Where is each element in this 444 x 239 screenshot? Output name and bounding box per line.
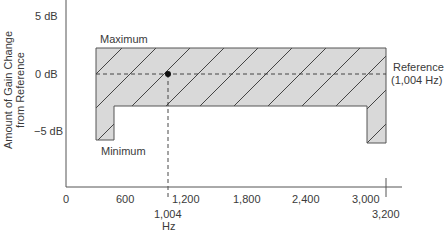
x-tick-1800: 1,800 bbox=[233, 193, 261, 205]
y-tick-minus5db: −5 dB bbox=[34, 125, 63, 137]
y-tick-0db: 0 dB bbox=[35, 68, 58, 80]
y-axis-label: Amount of Gain Change from Reference bbox=[2, 31, 26, 149]
x-tick-2400: 2,400 bbox=[292, 193, 320, 205]
x-tick-1200: 1,200 bbox=[172, 193, 200, 205]
x-tick-600: 600 bbox=[116, 193, 134, 205]
y-axis-label-line2: from Reference bbox=[14, 31, 26, 149]
maximum-label: Maximum bbox=[100, 33, 148, 45]
reference-label: Reference bbox=[393, 61, 444, 73]
y-axis-label-line1: Amount of Gain Change bbox=[2, 31, 14, 149]
reference-sublabel: (1,004 Hz) bbox=[391, 74, 442, 86]
x-tick-3200: 3,200 bbox=[372, 208, 400, 220]
tolerance-band bbox=[96, 48, 386, 143]
x-tick-0: 0 bbox=[63, 193, 69, 205]
minimum-label: Minimum bbox=[101, 145, 146, 157]
x-tick-3000: 3,000 bbox=[352, 193, 380, 205]
reference-frequency-label: 1,004 bbox=[154, 208, 182, 220]
reference-point bbox=[165, 71, 171, 77]
reference-frequency-unit: Hz bbox=[162, 220, 175, 232]
y-tick-5db: 5 dB bbox=[35, 10, 58, 22]
